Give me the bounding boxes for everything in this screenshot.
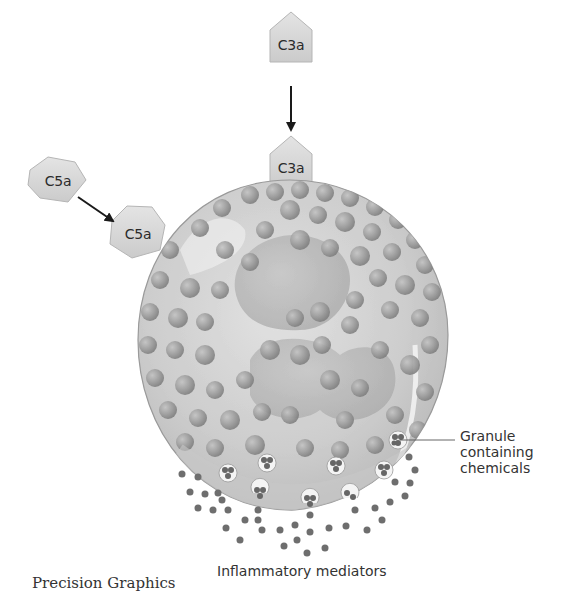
c3a-free-label: C3a — [270, 37, 312, 53]
vesicle-icon — [375, 461, 393, 479]
vesicle-icon — [219, 464, 237, 482]
diagram-svg — [0, 0, 566, 606]
c3a-bound-label: C3a — [270, 160, 312, 176]
cell-body — [138, 180, 448, 510]
c5a-free-label: C5a — [36, 173, 80, 189]
granule-label-line-1: Granule — [460, 428, 534, 444]
mediators-label: Inflammatory mediators — [217, 563, 387, 579]
granule-callout-label: Granule containing chemicals — [460, 428, 534, 476]
c5a-binding-arrow — [78, 197, 113, 221]
c5a-bound-label: C5a — [116, 226, 160, 242]
vesicle-icon — [258, 454, 276, 472]
figure-canvas: C3a C3a C5a C5a Granule containing chemi… — [0, 0, 566, 606]
credit-text: Precision Graphics — [32, 574, 176, 592]
granule-label-line-3: chemicals — [460, 460, 534, 476]
vesicle-icon — [327, 457, 345, 475]
vesicle-icon — [341, 483, 359, 500]
granule-label-line-2: containing — [460, 444, 534, 460]
